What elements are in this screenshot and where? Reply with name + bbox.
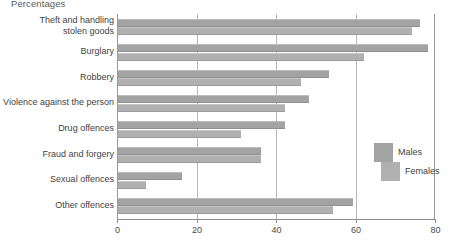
bar-females bbox=[118, 53, 364, 61]
bar-males bbox=[118, 44, 428, 52]
bar-males bbox=[118, 198, 353, 206]
chart-title: Percentages bbox=[11, 0, 65, 9]
tick-mark bbox=[356, 219, 357, 223]
bar-males bbox=[118, 121, 285, 129]
category-label: Robbery bbox=[80, 72, 114, 83]
x-tick-label: 20 bbox=[192, 225, 202, 235]
legend-swatch-males-icon bbox=[374, 143, 393, 162]
x-tick-label: 60 bbox=[351, 225, 361, 235]
category-label: Theft and handling stolen goods bbox=[39, 15, 114, 36]
legend-label-females: Females bbox=[405, 166, 440, 176]
tick-mark bbox=[276, 219, 277, 223]
x-tick-label: 40 bbox=[271, 225, 281, 235]
bar-females bbox=[118, 27, 412, 35]
category-label: Violence against the person bbox=[3, 97, 114, 108]
bar-females bbox=[118, 78, 301, 86]
bar-females bbox=[118, 130, 241, 138]
category-label: Sexual offences bbox=[50, 174, 114, 185]
x-tick-label: 80 bbox=[430, 225, 440, 235]
category-label: Fraud and forgery bbox=[42, 149, 114, 160]
bar-males bbox=[118, 19, 420, 27]
tick-mark bbox=[435, 219, 436, 223]
bar-males bbox=[118, 172, 182, 180]
legend-swatch-females-icon bbox=[381, 162, 400, 181]
category-label: Drug offences bbox=[58, 123, 114, 134]
bar-females bbox=[118, 155, 261, 163]
bar-females bbox=[118, 104, 285, 112]
bar-chart: Percentages 020406080 Theft and handling… bbox=[0, 0, 455, 243]
bar-females bbox=[118, 206, 333, 214]
bar-females bbox=[118, 181, 146, 189]
bar-males bbox=[118, 95, 309, 103]
category-label: Burglary bbox=[80, 46, 114, 57]
x-tick-label: 0 bbox=[115, 225, 120, 235]
tick-mark bbox=[197, 219, 198, 223]
bar-males bbox=[118, 147, 261, 155]
category-label: Other offences bbox=[55, 200, 114, 211]
legend-label-males: Males bbox=[398, 147, 422, 157]
bar-males bbox=[118, 70, 329, 78]
tick-mark bbox=[117, 219, 118, 223]
